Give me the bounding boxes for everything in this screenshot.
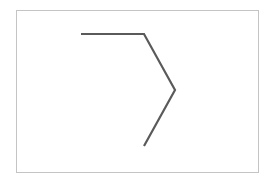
diagram-drawing [0,0,276,185]
open-polyline-shape [81,34,175,146]
diagram-canvas [0,0,276,185]
